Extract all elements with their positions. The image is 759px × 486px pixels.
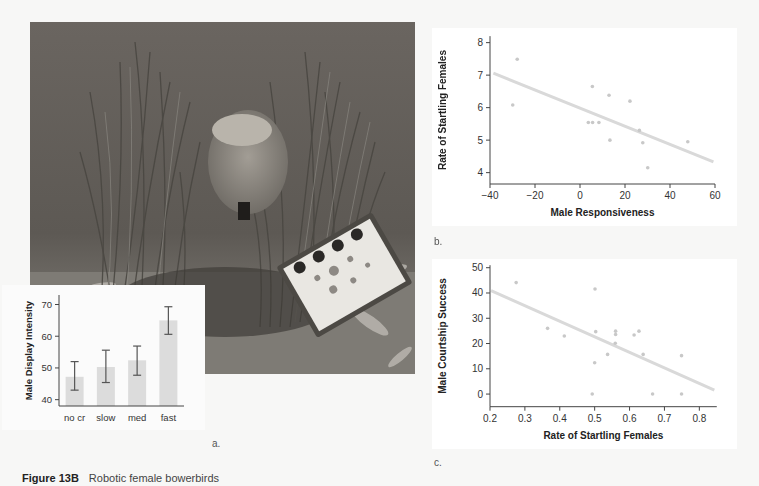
data-point	[546, 327, 550, 331]
x-axis-label: Male Responsiveness	[551, 207, 655, 218]
chart-a-bar: no crslowmedfast40506070Robot Crouch (cr…	[2, 285, 205, 430]
chart-b-svg: 45678−40−200204060Male ResponsivenessRat…	[432, 28, 737, 226]
chart-c-scatter: 010203040500.20.30.40.50.60.70.8Rate of …	[432, 259, 737, 449]
x-tick-label: 0.8	[692, 413, 706, 424]
data-point	[591, 121, 595, 125]
regression-line	[493, 73, 713, 162]
chart-b-scatter: 45678−40−200204060Male ResponsivenessRat…	[432, 28, 737, 226]
figure-caption: Figure 13BRobotic female bowerbirds	[22, 472, 219, 484]
data-point	[680, 392, 684, 396]
y-tick-label: 70	[41, 299, 52, 310]
x-tick-label: 0.6	[623, 413, 637, 424]
data-point	[593, 361, 597, 365]
data-point	[597, 121, 601, 125]
y-tick-label: 60	[41, 331, 52, 342]
x-tick-label: 0.7	[657, 413, 671, 424]
caption-text: Robotic female bowerbirds	[89, 472, 219, 484]
data-point	[514, 281, 518, 285]
y-axis-label: Male Display Intensity	[23, 300, 34, 400]
data-point	[628, 99, 632, 103]
x-category-label: med	[128, 412, 146, 423]
data-point	[651, 392, 655, 396]
data-point	[511, 103, 515, 107]
y-tick-label: 40	[41, 394, 52, 405]
regression-line	[491, 291, 714, 390]
x-axis-label: Rate of Startling Females	[543, 430, 663, 441]
panel-label-a: a.	[212, 438, 220, 449]
data-point	[614, 329, 618, 333]
y-tick-label: 40	[472, 287, 484, 298]
x-category-label: slow	[96, 412, 115, 423]
data-point	[608, 138, 612, 142]
data-point	[686, 140, 690, 144]
y-tick-label: 30	[472, 313, 484, 324]
y-tick-label: 0	[477, 389, 483, 400]
x-tick-label: 0.5	[588, 413, 602, 424]
x-tick-label: 40	[664, 190, 676, 201]
data-point	[641, 353, 645, 357]
data-point	[641, 141, 645, 145]
panel-label-b: b.	[434, 236, 442, 247]
y-tick-label: 6	[477, 102, 483, 113]
data-point	[613, 341, 617, 345]
x-category-label: no cr	[64, 412, 85, 423]
data-point	[614, 333, 618, 337]
y-axis-label: Male Courtship Success	[437, 278, 448, 394]
data-point	[632, 333, 636, 337]
data-point	[515, 57, 519, 61]
chart-a-svg: no crslowmedfast40506070Robot Crouch (cr…	[2, 285, 205, 430]
data-point	[638, 129, 642, 133]
y-tick-label: 4	[477, 167, 483, 178]
data-point	[606, 353, 610, 357]
data-point	[587, 121, 591, 125]
x-tick-label: 0	[577, 190, 583, 201]
y-tick-label: 7	[477, 70, 483, 81]
x-tick-label: 60	[709, 190, 721, 201]
x-tick-label: 0.2	[483, 413, 497, 424]
panel-label-c: c.	[434, 457, 442, 468]
y-tick-label: 5	[477, 135, 483, 146]
data-point	[593, 287, 597, 291]
y-tick-label: 10	[472, 363, 484, 374]
y-tick-label: 50	[472, 262, 484, 273]
x-category-label: fast	[161, 412, 177, 423]
data-point	[590, 392, 594, 396]
x-axis-label: Robot Crouch (cr) Rate	[64, 429, 169, 430]
data-point	[563, 334, 567, 338]
y-tick-label: 8	[477, 37, 483, 48]
data-point	[680, 354, 684, 358]
y-axis-label: Rate of Startling Females	[437, 50, 448, 170]
data-point	[591, 85, 595, 89]
y-tick-label: 50	[41, 362, 52, 373]
x-tick-label: 0.4	[553, 413, 567, 424]
data-point	[607, 93, 611, 97]
x-tick-label: 20	[619, 190, 631, 201]
x-tick-label: −20	[527, 190, 544, 201]
chart-c-svg: 010203040500.20.30.40.50.60.70.8Rate of …	[432, 259, 737, 449]
data-point	[594, 330, 598, 334]
x-tick-label: 0.3	[518, 413, 532, 424]
x-tick-label: −40	[482, 190, 499, 201]
data-point	[637, 329, 641, 333]
data-point	[646, 166, 650, 170]
y-tick-label: 20	[472, 338, 484, 349]
caption-label: Figure 13B	[22, 472, 79, 484]
